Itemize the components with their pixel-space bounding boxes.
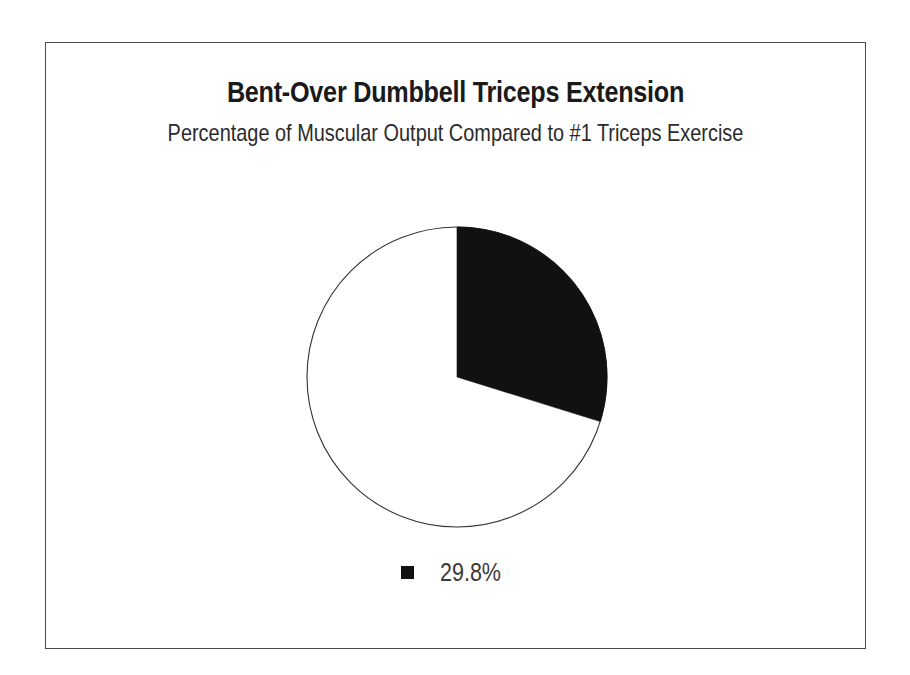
page-title: Bent-Over Dumbbell Triceps Extension: [112, 76, 800, 108]
legend-item: 29.8%: [401, 560, 511, 585]
chart-subtitle: Percentage of Muscular Output Compared t…: [116, 119, 796, 147]
legend-swatch-icon: [401, 566, 414, 579]
legend-item-label: 29.8%: [440, 560, 501, 585]
pie-chart: [306, 226, 608, 528]
pie-chart-svg: [306, 226, 608, 528]
chart-legend: 29.8%: [46, 560, 865, 585]
chart-frame: Bent-Over Dumbbell Triceps Extension Per…: [45, 42, 866, 649]
